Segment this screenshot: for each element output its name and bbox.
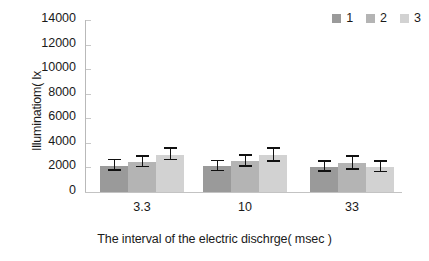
y-axis-tick-mark (86, 45, 91, 46)
y-axis-tick-label: 8000 (4, 85, 76, 99)
legend-item[interactable]: 3 (400, 12, 421, 25)
y-axis-tick-label: 0 (4, 183, 76, 197)
error-bar-cap-bottom (267, 160, 280, 162)
plot-area: 140001200010000800060004000200003.31033 (86, 20, 402, 192)
y-axis-tick-label: 14000 (4, 11, 76, 25)
bar-slot (203, 20, 231, 192)
error-bar-cap-bottom (211, 170, 224, 172)
x-axis-line (85, 192, 402, 193)
bar-slot (259, 20, 287, 192)
y-axis-tick-label: 4000 (4, 134, 76, 148)
bar-slot (128, 20, 156, 192)
bar-slot (100, 20, 128, 192)
y-axis-tick-label: 2000 (4, 158, 76, 172)
y-axis-tick-mark (86, 94, 91, 95)
bar-chart-figure: Illuminatiom( lx 123 1400012000100008000… (0, 0, 429, 261)
y-axis-tick-label: 6000 (4, 109, 76, 123)
bar-group: 33 (310, 20, 394, 192)
error-bar-cap-bottom (239, 165, 252, 167)
legend-label: 3 (414, 12, 421, 25)
error-bar-cap-top (211, 160, 224, 162)
error-bar-cap-top (239, 154, 252, 156)
bar-slot (338, 20, 366, 192)
error-bar-cap-top (164, 147, 177, 149)
error-bar-cap-bottom (108, 169, 121, 171)
error-bar-cap-bottom (164, 159, 177, 161)
bar-slot (156, 20, 184, 192)
bar-group-bars (203, 20, 287, 192)
error-bar-cap-bottom (346, 168, 359, 170)
bar-slot (366, 20, 394, 192)
error-bar-cap-bottom (374, 171, 387, 173)
error-bar-cap-bottom (318, 170, 331, 172)
y-axis-tick-label: 10000 (4, 60, 76, 74)
error-bar-cap-top (318, 160, 331, 162)
bar-slot (310, 20, 338, 192)
error-bar-cap-top (267, 147, 280, 149)
y-axis-line (85, 20, 86, 192)
y-axis-tick-mark (86, 69, 91, 70)
x-axis-tick-label: 10 (203, 200, 287, 214)
x-axis-tick-label: 3.3 (100, 200, 184, 214)
x-axis-tick-label: 33 (310, 200, 394, 214)
y-axis-tick-label: 12000 (4, 36, 76, 50)
y-axis-tick-mark (86, 167, 91, 168)
error-bar-cap-top (136, 155, 149, 157)
bar-group-bars (100, 20, 184, 192)
x-axis-title: The interval of the electric dischrge( m… (0, 232, 429, 246)
y-axis-tick-mark (86, 143, 91, 144)
bar-group: 10 (203, 20, 287, 192)
y-axis-tick-mark (86, 118, 91, 119)
bar-slot (231, 20, 259, 192)
bar-group: 3.3 (100, 20, 184, 192)
bar-group-bars (310, 20, 394, 192)
error-bar-cap-top (374, 160, 387, 162)
error-bar-cap-top (108, 159, 121, 161)
y-axis-tick-mark (86, 20, 91, 21)
error-bar-cap-top (346, 155, 359, 157)
error-bar-cap-bottom (136, 166, 149, 168)
